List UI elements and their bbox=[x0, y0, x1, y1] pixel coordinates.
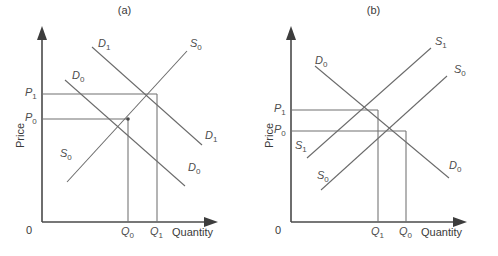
panel-b: (b) Price Quantity 0 P1 bbox=[249, 0, 498, 256]
curve-label-supply-1-upper-b-sub: 1 bbox=[442, 41, 446, 50]
y-axis-arrow-b bbox=[286, 26, 296, 40]
curve-label-demand-0-lower-b-sub: 0 bbox=[457, 165, 461, 174]
curve-label-supply-0-lower-b-sub: 0 bbox=[324, 175, 328, 184]
curve-label-demand-1-lower-a-text: D bbox=[205, 129, 213, 141]
curve-label-supply-1-lower-b: S1 bbox=[295, 140, 307, 151]
curve-label-demand-0-upper-b-text: D bbox=[315, 54, 323, 66]
curve-demand-0-a bbox=[65, 80, 185, 186]
curve-label-supply-0-upper-b: S0 bbox=[454, 64, 466, 75]
quantity-tick-q1-b: Q1 bbox=[371, 226, 384, 237]
curve-label-demand-1-upper-a-text: D bbox=[98, 37, 106, 49]
curve-label-supply-0-upper-b-sub: 0 bbox=[461, 69, 465, 78]
curve-label-demand-0-upper-a-sub: 0 bbox=[80, 75, 84, 84]
panel-b-plot bbox=[249, 0, 498, 256]
price-tick-p1-a-sub: 1 bbox=[32, 92, 36, 101]
curve-label-demand-0-lower-b: D0 bbox=[449, 160, 461, 171]
price-tick-p0-a: P0 bbox=[25, 112, 37, 123]
curve-label-supply-0-lower-a: S0 bbox=[60, 148, 72, 159]
price-tick-p0-b: P0 bbox=[274, 124, 286, 135]
equilibrium-point-0-a bbox=[126, 117, 130, 121]
curve-label-demand-0-upper-a: D0 bbox=[72, 70, 84, 81]
curve-label-demand-0-upper-b: D0 bbox=[315, 55, 327, 66]
origin-label-b: 0 bbox=[275, 224, 281, 236]
quantity-tick-q1-b-text: Q bbox=[371, 225, 380, 237]
curve-label-demand-0-lower-a-sub: 0 bbox=[196, 167, 200, 176]
curve-label-supply-0-lower-a-sub: 0 bbox=[67, 153, 71, 162]
price-tick-p1-a: P1 bbox=[25, 87, 37, 98]
curve-label-demand-0-lower-a-text: D bbox=[188, 161, 196, 173]
origin-label-a: 0 bbox=[26, 224, 32, 236]
quantity-tick-q0-a-sub: 0 bbox=[130, 231, 134, 240]
curve-demand-0-b bbox=[315, 66, 449, 178]
curve-demand-1-a bbox=[92, 47, 202, 145]
curve-label-demand-0-upper-b-sub: 0 bbox=[323, 60, 327, 69]
curve-label-demand-0-lower-a: D0 bbox=[188, 162, 200, 173]
quantity-tick-q0-a-text: Q bbox=[121, 225, 130, 237]
curve-label-demand-1-upper-a-sub: 1 bbox=[106, 43, 110, 52]
curve-label-supply-0-upper-a-sub: 0 bbox=[197, 43, 201, 52]
quantity-tick-q0-b: Q0 bbox=[399, 226, 412, 237]
x-axis-label-b: Quantity bbox=[421, 226, 462, 238]
quantity-tick-q0-a: Q0 bbox=[121, 226, 134, 237]
price-tick-p0-b-sub: 0 bbox=[281, 129, 285, 138]
y-axis-arrow-a bbox=[37, 26, 47, 40]
curve-label-demand-1-lower-a: D1 bbox=[205, 130, 217, 141]
curve-label-supply-1-upper-b: S1 bbox=[435, 36, 447, 47]
curve-label-supply-0-lower-b: S0 bbox=[317, 170, 329, 181]
curve-label-demand-1-lower-a-sub: 1 bbox=[213, 135, 217, 144]
panel-a: (a) Price Quantity 0 bbox=[0, 0, 249, 256]
economics-figure: (a) Price Quantity 0 bbox=[0, 0, 498, 256]
curve-label-demand-0-upper-a-text: D bbox=[72, 69, 80, 81]
price-tick-p0-a-sub: 0 bbox=[32, 117, 36, 126]
curve-supply-0-a bbox=[67, 51, 187, 182]
curve-supply-0-b bbox=[321, 76, 447, 190]
quantity-tick-q0-b-sub: 0 bbox=[408, 231, 412, 240]
quantity-tick-q1-a-text: Q bbox=[150, 225, 159, 237]
quantity-tick-q1-a: Q1 bbox=[150, 226, 163, 237]
curve-label-demand-1-upper-a: D1 bbox=[98, 38, 110, 49]
curve-label-supply-1-lower-b-sub: 1 bbox=[302, 145, 306, 154]
x-axis-label-a: Quantity bbox=[172, 226, 213, 238]
y-axis-label-a: Price bbox=[14, 123, 26, 148]
price-tick-p1-b: P1 bbox=[274, 103, 286, 114]
price-tick-p1-b-sub: 1 bbox=[281, 108, 285, 117]
panel-a-plot bbox=[0, 0, 249, 256]
quantity-tick-q0-b-text: Q bbox=[399, 225, 408, 237]
quantity-tick-q1-a-sub: 1 bbox=[159, 231, 163, 240]
curve-label-supply-0-upper-a: S0 bbox=[190, 38, 202, 49]
curve-label-demand-0-lower-b-text: D bbox=[449, 159, 457, 171]
quantity-tick-q1-b-sub: 1 bbox=[380, 231, 384, 240]
